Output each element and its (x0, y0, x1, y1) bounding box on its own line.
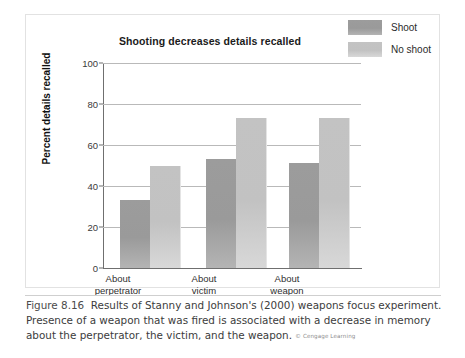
x-category-weapon-line1: About (242, 273, 332, 285)
bar-weapon-noshoot (319, 118, 350, 268)
y-axis-title: Percent details recalled (41, 44, 52, 174)
figure-credit: © Cengage Learning (295, 333, 355, 339)
bar-perpetrator-noshoot (150, 166, 181, 269)
legend-label-shoot: Shoot (391, 22, 417, 33)
caption-divider (25, 295, 441, 296)
gridline-100 (103, 63, 361, 64)
legend-swatch-shoot-icon (348, 20, 382, 35)
plot-area (103, 63, 361, 268)
bar-perpetrator-shoot (120, 200, 151, 268)
x-category-victim-line1: About (159, 273, 249, 285)
x-category-victim: About victim (159, 273, 249, 297)
x-category-perpetrator: About perpetrator (73, 273, 163, 297)
figure-root: Shooting decreases details recalled 0 20… (0, 0, 465, 358)
bar-victim-noshoot (236, 118, 267, 268)
legend-swatch-noshoot-icon (348, 42, 382, 57)
y-tick-label-20: 20 (68, 222, 98, 233)
y-axis-ticks: 0 20 40 60 80 100 (65, 63, 98, 268)
chart-legend: Shoot No shoot (348, 20, 460, 64)
x-axis-line (103, 268, 362, 269)
y-tick-label-0: 0 (68, 263, 98, 274)
y-tick-label-100: 100 (68, 58, 98, 69)
bar-victim-shoot (206, 159, 237, 268)
gridline-80 (103, 104, 361, 105)
figure-number: Figure 8.16 (26, 299, 84, 311)
legend-item-noshoot: No shoot (348, 42, 460, 57)
figure-caption-text: Results of Stanny and Johnson's (2000) w… (26, 299, 441, 341)
x-category-weapon: About weapon (242, 273, 332, 297)
y-tick-label-80: 80 (68, 99, 98, 110)
x-category-perpetrator-line1: About (73, 273, 163, 285)
legend-item-shoot: Shoot (348, 20, 460, 35)
figure-caption: Figure 8.16 Results of Stanny and Johnso… (26, 298, 442, 344)
y-tick-label-40: 40 (68, 181, 98, 192)
legend-label-noshoot: No shoot (391, 44, 431, 55)
y-tick-label-60: 60 (68, 140, 98, 151)
bar-weapon-shoot (289, 163, 320, 268)
chart-title: Shooting decreases details recalled (60, 35, 360, 47)
